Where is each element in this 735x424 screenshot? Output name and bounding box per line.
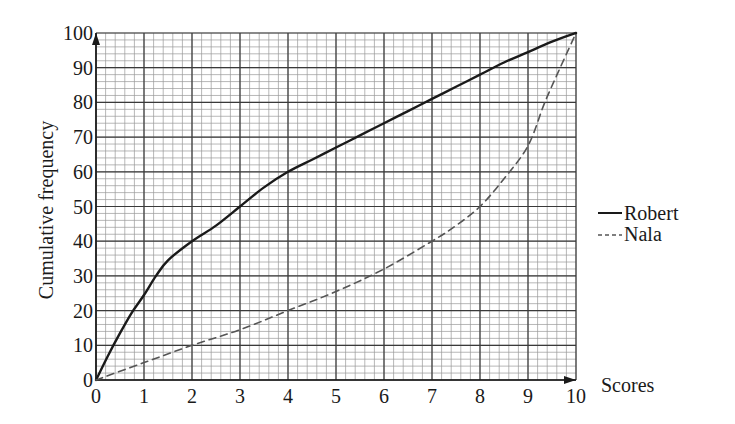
x-axis-label: Scores (601, 374, 655, 396)
x-tick-label: 2 (187, 385, 197, 407)
y-tick-label: 100 (63, 22, 93, 44)
x-axis-arrow-icon (564, 376, 576, 384)
legend: Robert Nala (598, 202, 679, 245)
x-tick-label: 8 (475, 385, 485, 407)
y-tick-label: 0 (83, 369, 93, 391)
y-tick-label: 20 (73, 300, 93, 322)
chart-canvas: 012345678910 0102030405060708090100 Scor… (0, 0, 735, 424)
cumulative-frequency-chart: 012345678910 0102030405060708090100 Scor… (0, 0, 735, 424)
x-tick-label: 1 (139, 385, 149, 407)
y-tick-label: 50 (73, 196, 93, 218)
y-axis-arrow-icon (92, 33, 100, 45)
legend-item-robert: Robert (598, 202, 679, 224)
y-tick-label: 30 (73, 265, 93, 287)
y-axis-label: Cumulative frequency (35, 121, 58, 299)
y-tick-label: 70 (73, 126, 93, 148)
x-tick-label: 3 (235, 385, 245, 407)
y-tick-label: 60 (73, 161, 93, 183)
y-tick-label: 40 (73, 230, 93, 252)
x-tick-label: 5 (331, 385, 341, 407)
x-tick-label: 9 (523, 385, 533, 407)
x-tick-label: 4 (283, 385, 293, 407)
x-tick-label: 7 (427, 385, 437, 407)
y-tick-label: 90 (73, 57, 93, 79)
y-tick-labels: 0102030405060708090100 (63, 22, 93, 391)
y-tick-label: 80 (73, 91, 93, 113)
major-grid (96, 33, 576, 380)
x-tick-label: 6 (379, 385, 389, 407)
y-tick-label: 10 (73, 334, 93, 356)
x-tick-label: 10 (566, 385, 586, 407)
legend-label-nala: Nala (624, 223, 662, 245)
x-tick-labels: 012345678910 (91, 385, 586, 407)
legend-label-robert: Robert (624, 202, 679, 224)
legend-item-nala: Nala (598, 223, 662, 245)
